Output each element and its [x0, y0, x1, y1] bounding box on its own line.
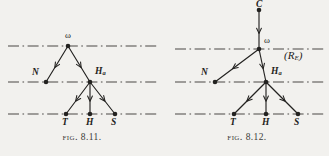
node-H [264, 112, 269, 117]
node-Ha [88, 80, 93, 85]
arrow-Ha-to-H [264, 82, 269, 114]
arrow-Ha-to-T [66, 82, 90, 114]
arrow-Ha-to-S [90, 82, 115, 114]
node-N [213, 80, 218, 85]
node-S [113, 112, 118, 117]
arrow-Ha-to-H [88, 82, 93, 114]
node-S [296, 112, 301, 117]
arrow-Ha-to-T [234, 82, 266, 114]
node-label-S: S [111, 118, 116, 128]
node-N [44, 80, 49, 85]
node-label-Ha: Ha [95, 67, 106, 77]
diagram-8-11 [0, 0, 164, 132]
caption-number: 8.12. [246, 132, 267, 142]
arrow-C-to-omega [257, 10, 262, 49]
region-label-RE: (RE) [284, 50, 302, 62]
node-label-Ha-subscript: a [102, 69, 105, 76]
node-label-C: C [256, 0, 262, 10]
node-label-omega: ω [65, 31, 71, 40]
node-Ha [264, 80, 269, 85]
node-T [64, 112, 69, 117]
node-label-N: N [201, 68, 208, 78]
node-label-T: T [62, 118, 68, 128]
arrow-omega-to-Ha [68, 46, 90, 82]
node-T [232, 112, 237, 117]
node-label-H: H [262, 118, 269, 128]
arrow-omega-to-Ha [259, 49, 266, 82]
arrow-omega-to-N [46, 46, 68, 82]
node-H [88, 112, 93, 117]
figure-8-12: C ω N Ha T H S (RE) Fig. 8.12. [165, 0, 329, 156]
node-omega [66, 44, 71, 49]
node-label-omega: ω [264, 36, 270, 45]
caption-number: 8.11. [81, 132, 102, 142]
node-label-H: H [86, 118, 93, 128]
diagram-8-12 [165, 0, 329, 132]
node-label-N: N [32, 68, 39, 78]
arrow-omega-to-N [215, 49, 259, 82]
figure-page: ω N Ha T H S Fig. 8.11. C ω N Ha T H S (… [0, 0, 329, 156]
caption-prefix: Fig. [227, 131, 243, 142]
caption-prefix: Fig. [63, 131, 79, 142]
node-omega [257, 47, 262, 52]
node-label-Ha: Ha [271, 67, 282, 77]
region-label-open: (R [284, 49, 294, 61]
figure-caption-8-12: Fig. 8.12. [165, 131, 329, 142]
figure-caption-8-11: Fig. 8.11. [0, 131, 164, 142]
figure-8-11: ω N Ha T H S Fig. 8.11. [0, 0, 164, 156]
node-label-S: S [294, 118, 299, 128]
node-label-T: T [230, 118, 236, 128]
region-label-close: ) [299, 49, 303, 61]
node-label-Ha-subscript: a [278, 69, 281, 76]
arrow-Ha-to-S [266, 82, 298, 114]
